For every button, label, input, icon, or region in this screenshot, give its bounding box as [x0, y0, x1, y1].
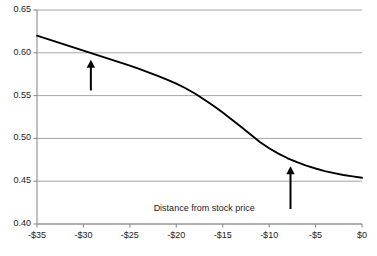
x-tick-label--15: -$15	[203, 230, 243, 240]
annotation-arrows	[87, 60, 295, 209]
data-series-line	[37, 36, 362, 178]
x-axis-caption: Distance from stock price	[154, 203, 255, 213]
y-tick-label-0.60: 0.60	[1, 47, 31, 57]
chart-axes	[37, 10, 362, 224]
y-tick-label-0.40: 0.40	[1, 218, 31, 228]
x-tick-label--25: -$25	[110, 230, 150, 240]
x-tick-label--35: -$35	[17, 230, 57, 240]
y-tick-label-0.45: 0.45	[1, 175, 31, 185]
right-up-arrow	[286, 166, 294, 209]
left-up-arrow	[87, 60, 95, 91]
x-tick-label--5: -$5	[296, 230, 336, 240]
series-line-0	[37, 36, 362, 178]
x-tick-label--30: -$30	[63, 230, 103, 240]
axis-tick-marks	[34, 10, 363, 228]
chart-container: 0.400.450.500.550.600.65 -$35-$30-$25-$2…	[0, 0, 377, 256]
y-tick-label-0.55: 0.55	[1, 90, 31, 100]
x-tick-label--20: -$20	[156, 230, 196, 240]
x-tick-label--10: -$10	[249, 230, 289, 240]
gridlines	[37, 10, 362, 224]
x-tick-label-0: $0	[342, 230, 377, 240]
y-tick-label-0.50: 0.50	[1, 132, 31, 142]
left-up-arrow-head	[87, 60, 95, 68]
chart-plot-area	[0, 0, 377, 256]
y-tick-label-0.65: 0.65	[1, 4, 31, 14]
right-up-arrow-head	[286, 166, 294, 174]
